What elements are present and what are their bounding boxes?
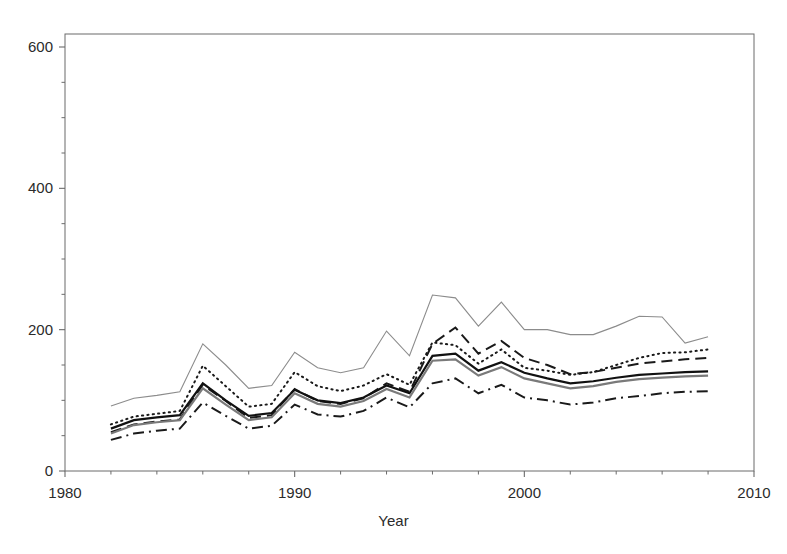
- x-tick-label: 2000: [489, 484, 559, 501]
- chart-figure: 0200400600 1980199020002010 Year: [0, 0, 787, 554]
- y-tick-label: 0: [9, 462, 53, 479]
- y-tick-label: 200: [9, 321, 53, 338]
- y-tick-label: 400: [9, 179, 53, 196]
- y-tick-label: 600: [9, 38, 53, 55]
- series-line-series-5-solid-gray: [111, 359, 708, 433]
- data-series-group: [111, 295, 708, 440]
- axes-frame: [65, 34, 754, 471]
- series-line-series-3-dashed: [111, 328, 708, 433]
- x-tick-label: 1990: [260, 484, 330, 501]
- x-axis-title: Year: [0, 512, 787, 529]
- line-chart-plot: [0, 0, 787, 554]
- x-tick-label: 1980: [30, 484, 100, 501]
- x-tick-label: 2010: [719, 484, 787, 501]
